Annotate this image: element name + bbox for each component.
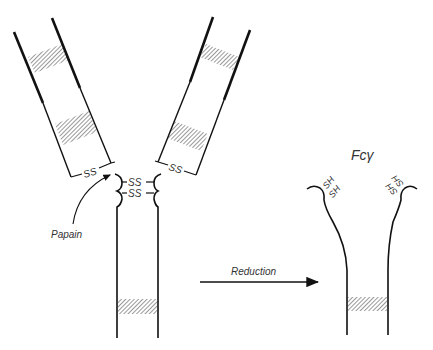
reduction-label: Reduction <box>231 266 276 277</box>
papain-label: Papain <box>51 229 83 240</box>
left-arm-hatch-bottom <box>55 111 97 145</box>
hinge-and-stem: SS SS <box>115 174 161 338</box>
right-arm-hatch-top <box>200 44 239 70</box>
right-fab-arm: SS <box>155 17 250 176</box>
fc-hatch <box>348 297 387 311</box>
hinge-ss-label-2: SS <box>128 188 142 199</box>
fc-gamma-fragment: Fcγ SH SH SH SH <box>307 147 417 335</box>
left-arm-ss-label: SS <box>82 165 98 180</box>
papain-annotation: Papain <box>51 175 110 240</box>
stem-hatch <box>118 299 157 314</box>
fc-gamma-label: Fcγ <box>351 147 375 163</box>
reduction-annotation: Reduction <box>200 266 318 282</box>
antibody-diagram: SS SS SS SS Papain R <box>0 0 433 350</box>
left-fab-arm: SS <box>14 18 115 180</box>
hinge-ss-label-1: SS <box>128 177 142 188</box>
right-arm-ss-label: SS <box>167 161 183 176</box>
papain-arrow <box>73 175 110 224</box>
